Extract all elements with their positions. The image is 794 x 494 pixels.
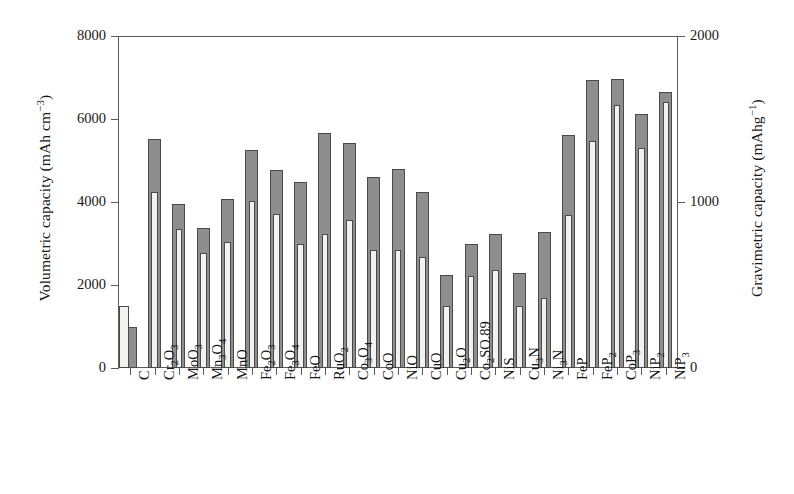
x-axis-label: NiS [501, 357, 518, 380]
right-axis-tick-label: 1000 [690, 193, 750, 210]
left-axis-tick-label: 8000 [46, 27, 106, 44]
bar-gravimetric [346, 220, 353, 368]
left-axis-tick [111, 202, 119, 203]
bar-gravimetric [589, 141, 596, 368]
left-axis-tick-label: 4000 [46, 193, 106, 210]
x-axis-label: C [136, 370, 153, 380]
x-axis-tick [593, 368, 594, 375]
x-axis-label: CoP3 [623, 350, 642, 380]
x-axis-label: Ni3N [550, 350, 569, 380]
x-axis-tick [155, 368, 156, 375]
x-axis-label: FeP2 [599, 352, 618, 380]
right-axis-tick [677, 36, 685, 37]
x-axis-label: Cu3N [526, 347, 545, 380]
x-axis-label: RuO2 [331, 347, 350, 380]
bar-gravimetric [322, 234, 329, 368]
bar-gravimetric [663, 102, 670, 368]
bar-gravimetric [638, 148, 645, 368]
x-axis-tick [447, 368, 448, 375]
x-axis-label: NiP2 [647, 352, 666, 380]
x-axis-label: NiP3 [672, 352, 691, 380]
bar-gravimetric [614, 105, 621, 368]
bar-gravimetric [119, 306, 129, 368]
x-axis-label: NiO [404, 355, 421, 380]
x-axis-label: CuO [428, 353, 445, 380]
x-axis-tick [398, 368, 399, 375]
bar-gravimetric [565, 215, 572, 368]
left-axis-tick [111, 368, 119, 369]
right-axis-tick [677, 202, 685, 203]
x-axis-tick [325, 368, 326, 375]
left-axis-tick [111, 36, 119, 37]
x-axis-tick [252, 368, 253, 375]
x-axis-label: FeP [574, 357, 591, 380]
x-axis-tick [520, 368, 521, 375]
x-axis-tick [422, 368, 423, 375]
left-axis-tick [111, 119, 119, 120]
x-axis-label: MoO3 [185, 344, 204, 380]
right-axis-tick-labels: 010002000 [690, 0, 756, 494]
x-axis-label: CoO [380, 353, 397, 380]
x-axis-label: Mn3O4 [209, 339, 228, 380]
x-axis-label: Co2SO.89 [477, 321, 496, 380]
left-axis-tick-label: 6000 [46, 110, 106, 127]
x-axis-label: Cu2O [453, 347, 472, 380]
x-axis-label: Co3O4 [355, 342, 374, 380]
left-axis-tick-label: 2000 [46, 276, 106, 293]
x-axis-tick [666, 368, 667, 375]
x-axis-label: Fe3O4 [282, 345, 301, 380]
chart-figure: Volumetric capacity (mAh cm−3) Gravimetr… [0, 0, 794, 494]
bar-gravimetric [249, 201, 256, 368]
x-axis-label: Cr2O3 [161, 345, 180, 380]
bar-gravimetric [419, 257, 426, 368]
bar-gravimetric [395, 250, 402, 368]
left-axis-tick-labels: 02000400060008000 [40, 0, 106, 494]
x-axis-label: Fe2O3 [258, 345, 277, 380]
right-axis-tick-label: 0 [690, 359, 750, 376]
x-axis-label: FeO [307, 355, 324, 380]
x-axis-label: MnO [234, 349, 251, 380]
right-axis-tick-label: 2000 [690, 27, 750, 44]
left-axis-tick [111, 285, 119, 286]
left-axis-tick-label: 0 [46, 359, 106, 376]
bar-gravimetric [151, 192, 158, 368]
x-axis-tick [130, 368, 131, 375]
